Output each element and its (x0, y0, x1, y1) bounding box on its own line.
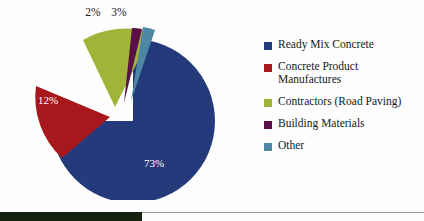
legend-item-ready-mix-concrete[interactable]: Ready Mix Concrete (264, 38, 422, 51)
pie-svg: 73% 12% 10% 2% 3% (0, 0, 246, 200)
banner-horizontal-rule (142, 212, 424, 213)
legend-swatch-icon (264, 121, 272, 129)
pie-value-label-concrete-product: 12% (38, 94, 58, 106)
legend-item-label: Other (278, 139, 304, 152)
legend-item-contractors-road-paving[interactable]: Contractors (Road Paving) (264, 95, 422, 108)
pie-value-label-building-materials: 2% (85, 6, 101, 18)
legend-swatch-icon (264, 143, 272, 151)
pie-value-label-other: 3% (111, 6, 127, 18)
legend-swatch-icon (264, 99, 272, 107)
pie-value-label-ready-mix: 73% (144, 157, 164, 169)
bottom-banner (0, 212, 142, 221)
legend-item-label: Concrete Product Manufactures (278, 60, 358, 86)
legend-swatch-icon (264, 64, 272, 72)
pie-chart-figure: 73% 12% 10% 2% 3% Ready Mix Concrete Con… (0, 0, 424, 221)
legend-item-label: Building Materials (278, 117, 365, 130)
legend-swatch-icon (264, 42, 272, 50)
legend-item-other[interactable]: Other (264, 139, 422, 152)
pie-value-label-contractors: 10% (66, 50, 86, 62)
legend-item-building-materials[interactable]: Building Materials (264, 117, 422, 130)
legend-item-label: Ready Mix Concrete (278, 38, 374, 51)
chart-legend: Ready Mix Concrete Concrete Product Manu… (264, 38, 422, 161)
legend-item-label: Contractors (Road Paving) (278, 95, 401, 108)
legend-item-concrete-product-manufactures[interactable]: Concrete Product Manufactures (264, 60, 422, 86)
pie-plot-area: 73% 12% 10% 2% 3% (0, 0, 246, 200)
